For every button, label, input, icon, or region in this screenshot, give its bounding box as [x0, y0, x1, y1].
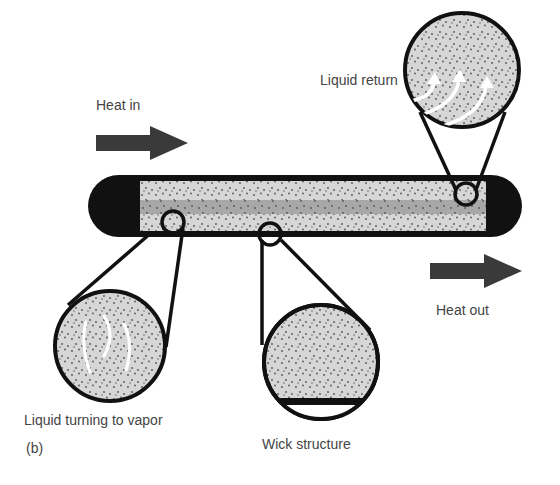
wick-structure-label: Wick structure: [262, 436, 351, 452]
heat-out-label: Heat out: [436, 302, 489, 318]
panel-label: (b): [26, 440, 43, 456]
vapor-magnifier: [55, 211, 184, 401]
liquid-turning-to-vapor-label: Liquid turning to vapor: [24, 412, 163, 428]
heat-pipe: [88, 175, 522, 237]
heat-out-arrow-icon: [430, 254, 522, 288]
wick-magnifier: [259, 223, 390, 425]
heat-in-label: Heat in: [96, 97, 140, 113]
heat-in-arrow-icon: [96, 126, 188, 160]
liquid-return-label: Liquid return: [320, 72, 398, 88]
